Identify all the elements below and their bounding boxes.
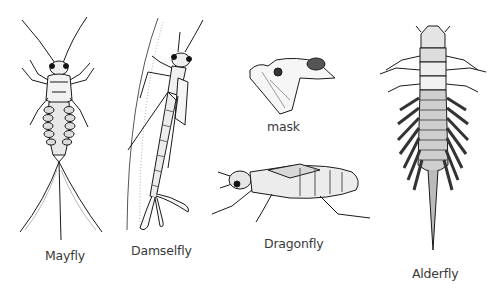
aquatic-insect-figure: Mayfly Damselfly mask Dragonfly Alderfly	[0, 0, 495, 294]
mayfly-label: Mayfly	[45, 248, 85, 263]
dragonfly-label: Dragonfly	[264, 236, 323, 251]
alderfly-label: Alderfly	[412, 266, 458, 281]
damselfly-label: Damselfly	[131, 243, 192, 258]
mask-label: mask	[267, 119, 300, 134]
